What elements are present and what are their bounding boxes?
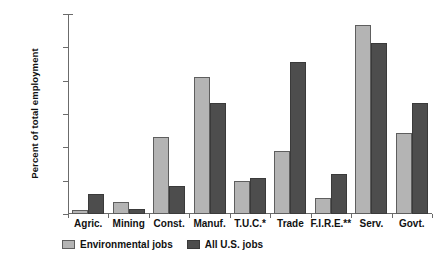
bar [234, 181, 250, 214]
bar-chart: Percent of total employment 0.00%5.00%10… [0, 0, 440, 264]
x-axis-tick [230, 214, 231, 218]
bar [355, 25, 371, 214]
y-axis-tick [63, 147, 68, 148]
y-axis-tick [63, 47, 68, 48]
y-axis-line [68, 14, 69, 214]
bar [72, 210, 88, 214]
bar [396, 133, 412, 214]
bar [371, 43, 387, 214]
bar [250, 178, 266, 214]
bar [153, 137, 169, 214]
bar-group [72, 14, 104, 214]
x-axis-tick [68, 214, 69, 218]
x-axis-tick [432, 214, 433, 218]
bar [274, 151, 290, 214]
x-axis-tick [189, 214, 190, 218]
bar-group [153, 14, 185, 214]
y-axis-tick [63, 81, 68, 82]
bar-group [274, 14, 306, 214]
y-axis-title: Percent of total employment [29, 14, 40, 214]
x-axis-tick-label: Mining [113, 218, 145, 229]
x-axis-tick-label: F.I.R.E.** [311, 218, 352, 229]
bar-group [396, 14, 428, 214]
y-axis-tick [63, 114, 68, 115]
y-axis-tick [63, 181, 68, 182]
bar [194, 77, 210, 214]
bar [210, 103, 226, 214]
x-axis-tick-label: Trade [277, 218, 304, 229]
bar [331, 174, 347, 214]
plot-area [68, 14, 432, 214]
x-axis-tick-label: Serv. [359, 218, 383, 229]
bar [129, 209, 145, 214]
legend-swatch-icon-all-us-jobs [187, 240, 200, 249]
x-axis-tick-label: Govt. [399, 218, 425, 229]
bar [412, 103, 428, 214]
x-axis-tick-label: Agric. [74, 218, 102, 229]
bar-group [355, 14, 387, 214]
y-axis-tick [63, 14, 68, 15]
legend: Environmental jobs All U.S. jobs [62, 239, 263, 250]
legend-swatch-icon-environmental-jobs [62, 240, 75, 249]
x-axis-tick-label: Manuf. [193, 218, 225, 229]
bar-group [194, 14, 226, 214]
x-axis-tick-label: T.U.C.* [234, 218, 266, 229]
bar-group [315, 14, 347, 214]
legend-label-all-us-jobs: All U.S. jobs [205, 239, 263, 250]
bar [113, 202, 129, 214]
bar [290, 62, 306, 214]
legend-item-all-us-jobs: All U.S. jobs [187, 239, 263, 250]
legend-item-environmental-jobs: Environmental jobs [62, 239, 173, 250]
x-axis-tick-label: Const. [154, 218, 185, 229]
x-axis-tick [149, 214, 150, 218]
bar-group [234, 14, 266, 214]
bar [169, 186, 185, 214]
bar [88, 194, 104, 214]
bar-group [113, 14, 145, 214]
bar [315, 198, 331, 214]
legend-label-environmental-jobs: Environmental jobs [80, 239, 173, 250]
x-axis-tick [392, 214, 393, 218]
x-axis-tick [270, 214, 271, 218]
x-axis-tick [108, 214, 109, 218]
